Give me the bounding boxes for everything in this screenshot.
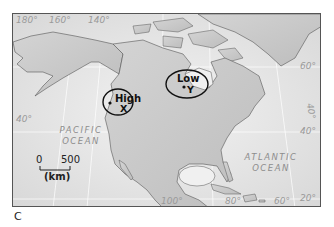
lat-label-20: 20° [300,193,316,203]
pacific-ocean-label: PACIFIC OCEAN [49,125,113,147]
point-y-label: Y [187,84,194,95]
scale-unit-label: (km) [44,171,70,182]
panel-label: C [14,210,22,223]
atlantic-line2: OCEAN [235,163,307,174]
atlantic-ocean-label: ATLANTIC OCEAN [235,152,307,174]
lat-label-40-left: 40° [16,114,32,124]
gulf-of-mexico [179,166,215,186]
lon-label-80: 80° [225,196,241,206]
lat-label-60: 60° [300,61,316,71]
point-x-label: X [120,103,127,114]
lon-label-100: 100° [161,196,183,206]
atlantic-line1: ATLANTIC [235,152,307,163]
high-pressure-label: High [115,93,141,104]
lon-label-60: 60° [274,196,290,206]
pacific-line2: OCEAN [49,136,113,147]
map-frame: 180° 160° 140° 100° 80° 60° 60° 40° 20° … [12,13,321,207]
point-x-marker [108,101,111,104]
point-y-marker [182,85,185,88]
pacific-line1: PACIFIC [49,125,113,136]
low-pressure-label: Low [177,73,199,84]
scale-start-label: 0 [36,154,42,165]
scale-end-label: 500 [61,154,80,165]
lat-label-40-right: 40° [300,126,316,136]
lon-label-160: 160° [49,15,71,25]
lon-label-180: 180° [16,15,38,25]
lon-label-140: 140° [88,15,110,25]
